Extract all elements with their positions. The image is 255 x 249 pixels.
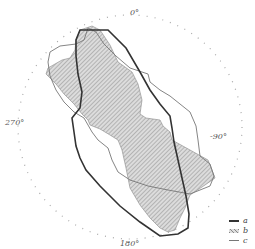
polar-diagram (0, 0, 255, 249)
hatch-swatch-icon (229, 229, 239, 233)
angle-label-270: 270° (5, 119, 24, 127)
angle-label-0: 0° (130, 9, 139, 17)
legend-label-a: a (243, 216, 248, 225)
thick-line-swatch-icon (229, 220, 239, 222)
angle-label-minus-90: -90° (210, 133, 227, 141)
angle-label-180: 180° (120, 240, 139, 248)
legend-label-b: b (243, 226, 248, 235)
legend-item-c: c (229, 236, 247, 245)
legend-item-a: a (229, 216, 248, 225)
legend-item-b: b (229, 226, 248, 235)
legend-label-c: c (243, 236, 247, 245)
thin-line-swatch-icon (229, 240, 239, 241)
